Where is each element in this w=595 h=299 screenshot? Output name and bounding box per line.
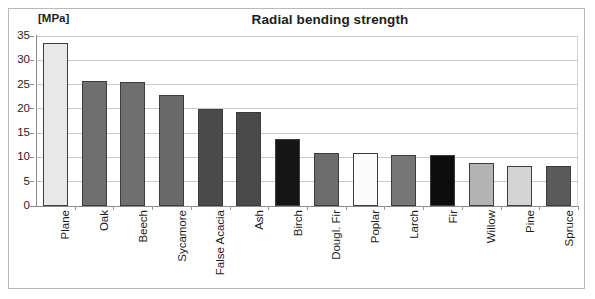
x-axis-tick-label: Fir bbox=[448, 210, 460, 223]
x-axis-tick-label: Sycamore bbox=[177, 210, 189, 262]
x-axis-tick-label: Oak bbox=[99, 210, 111, 231]
y-axis-tick-mark bbox=[30, 108, 34, 109]
y-axis-tick-label: 20 bbox=[4, 103, 30, 115]
gridline bbox=[36, 36, 578, 37]
gridline bbox=[36, 108, 578, 109]
x-axis-tick-label: False Acacia bbox=[215, 210, 227, 275]
y-axis-tick-label: 25 bbox=[4, 79, 30, 91]
bar bbox=[275, 139, 300, 206]
bar bbox=[430, 155, 455, 206]
y-axis-tick-label: 10 bbox=[4, 151, 30, 163]
bar bbox=[391, 155, 416, 206]
x-axis-tick-label: Spruce bbox=[564, 210, 576, 246]
gridline bbox=[36, 133, 578, 134]
y-axis-tick-label: 35 bbox=[4, 30, 30, 42]
gridline bbox=[36, 60, 578, 61]
bar bbox=[82, 81, 107, 206]
x-axis-tick-label: Dougl. Fir bbox=[331, 210, 343, 260]
y-axis-tick-mark bbox=[30, 181, 34, 182]
x-axis-tick-label: Larch bbox=[409, 210, 421, 239]
x-axis-tick-label: Poplar bbox=[370, 210, 382, 243]
y-axis-tick-label: 15 bbox=[4, 127, 30, 139]
bar bbox=[314, 153, 339, 206]
x-axis-tick-mark bbox=[578, 206, 579, 210]
bar bbox=[353, 153, 378, 206]
y-axis-tick-mark bbox=[30, 157, 34, 158]
bar bbox=[546, 166, 571, 206]
bar bbox=[43, 43, 68, 206]
y-axis-tick-label: 5 bbox=[4, 176, 30, 188]
chart-figure: [MPa] Radial bending strength 0510152025… bbox=[0, 0, 595, 299]
x-axis-tick-label: Birch bbox=[293, 210, 305, 236]
plot-area bbox=[36, 36, 578, 206]
chart-title: Radial bending strength bbox=[120, 12, 540, 27]
gridline bbox=[36, 181, 578, 182]
bar bbox=[159, 95, 184, 206]
x-axis-tick-label: Plane bbox=[60, 210, 72, 239]
bar bbox=[507, 166, 532, 206]
y-axis-tick-labels: 05101520253035 bbox=[2, 36, 30, 206]
x-axis-tick-labels: PlaneOakBeechSycamoreFalse AcaciaAshBirc… bbox=[36, 210, 578, 296]
y-axis-tick-mark bbox=[30, 133, 34, 134]
bar bbox=[236, 112, 261, 206]
gridline bbox=[36, 84, 578, 85]
y-axis-line bbox=[36, 35, 37, 206]
y-axis-tick-label: 0 bbox=[4, 200, 30, 212]
bar bbox=[198, 109, 223, 206]
y-axis-tick-label: 30 bbox=[4, 54, 30, 66]
y-axis-tick-mark bbox=[30, 84, 34, 85]
y-axis-tick-mark bbox=[30, 60, 34, 61]
x-axis-tick-label: Pine bbox=[525, 210, 537, 233]
bar bbox=[469, 163, 494, 206]
y-axis-unit-label: [MPa] bbox=[38, 12, 69, 24]
x-axis-tick-label: Beech bbox=[138, 210, 150, 243]
x-axis-tick-label: Willow bbox=[486, 210, 498, 243]
bar bbox=[120, 82, 145, 206]
gridline bbox=[36, 157, 578, 158]
y-axis-tick-mark bbox=[30, 36, 34, 37]
x-axis-tick-label: Ash bbox=[254, 210, 266, 230]
